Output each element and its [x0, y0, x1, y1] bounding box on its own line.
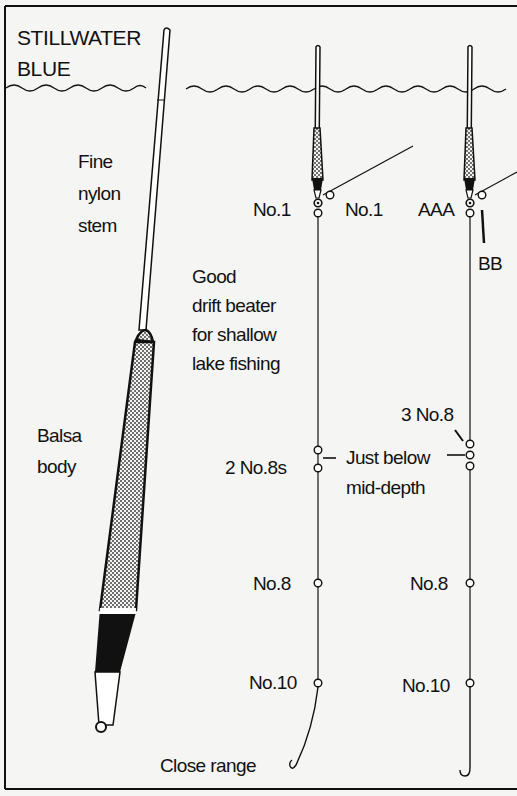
- description-line-3: for shallow: [192, 323, 276, 346]
- body-label-2: body: [37, 455, 76, 478]
- rig2-shot-lower: No.8: [410, 572, 448, 595]
- stem-label-3: stem: [78, 214, 117, 237]
- water-surface-right: [186, 86, 506, 92]
- description-line-1: Good: [192, 265, 236, 288]
- rig2-shot-bottom: No.10: [402, 674, 450, 697]
- water-surface-left: [6, 85, 146, 91]
- line-to-rod: [323, 146, 413, 195]
- balsa-body: [100, 342, 154, 610]
- float-eye: [96, 722, 106, 732]
- rig1-shot-bottom: No.10: [249, 671, 297, 694]
- title-line-2: BLUE: [17, 56, 70, 82]
- description-line-4: lake fishing: [192, 352, 280, 375]
- rig2-shot-top-left: AAA: [418, 198, 454, 221]
- rig-close-range: [290, 46, 413, 769]
- rig2-shot-mid: 3 No.8: [401, 403, 453, 426]
- rig1-shot-lower: No.8: [253, 572, 291, 595]
- depth-note-2: mid-depth: [346, 476, 425, 499]
- rig2-shot-top-right: BB: [478, 252, 502, 275]
- stem-label-1: Fine: [78, 150, 113, 173]
- depth-note-1: Just below: [346, 446, 430, 469]
- nylon-stem: [139, 28, 170, 330]
- rig1-shot-top-right: No.1: [345, 198, 383, 221]
- rig1-shot-top-left: No.1: [253, 198, 291, 221]
- body-label-1: Balsa: [37, 424, 82, 447]
- hook-close-range: [290, 687, 318, 768]
- large-float-illustration: [95, 28, 170, 732]
- title-line-1: STILLWATER: [17, 25, 141, 51]
- rig1-shot-mid: 2 No.8s: [225, 456, 286, 479]
- rig1-caption: Close range: [160, 754, 256, 777]
- stem-label-2: nylon: [78, 182, 120, 205]
- float-base: [95, 614, 136, 672]
- description-line-2: drift beater: [192, 294, 276, 317]
- hook-second: [460, 687, 470, 776]
- rig-second: [447, 46, 517, 777]
